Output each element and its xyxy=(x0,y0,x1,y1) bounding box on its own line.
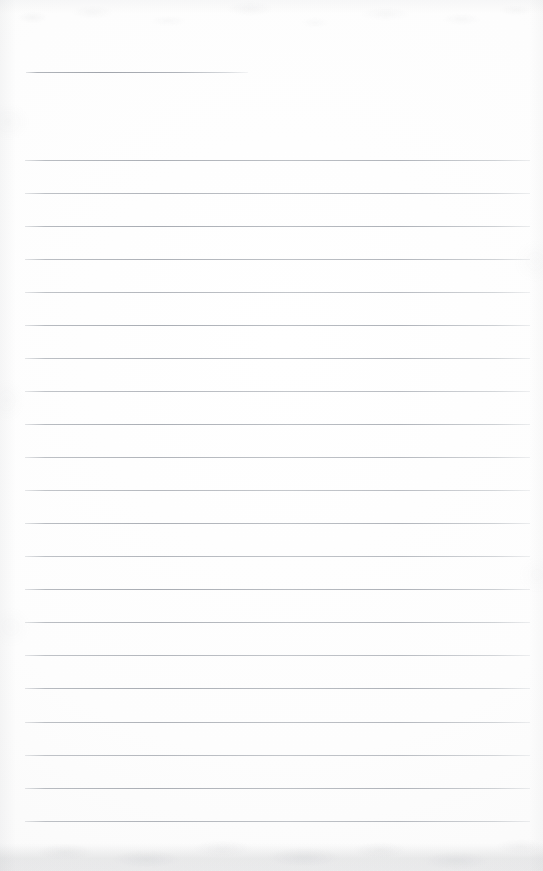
ruled-line xyxy=(25,193,530,194)
ruled-line xyxy=(25,722,530,723)
ruled-line xyxy=(25,490,530,491)
ruled-line xyxy=(25,457,530,458)
ruled-line xyxy=(25,788,530,789)
ruled-line xyxy=(25,821,530,822)
ruled-line xyxy=(25,589,530,590)
ruled-line xyxy=(25,259,530,260)
page-bottom-edge-shadow xyxy=(0,843,543,871)
ruled-line xyxy=(25,160,530,161)
paper-edge-vignette xyxy=(0,0,543,871)
ruled-line xyxy=(25,688,530,689)
ruled-line xyxy=(25,358,530,359)
ruled-line xyxy=(25,523,530,524)
ruled-line xyxy=(25,292,530,293)
ruled-line xyxy=(25,325,530,326)
ruled-line xyxy=(25,556,530,557)
ruled-line xyxy=(25,755,530,756)
ruled-line xyxy=(25,391,530,392)
scanned-page xyxy=(0,0,543,871)
ruled-line xyxy=(25,655,530,656)
header-rule xyxy=(26,72,248,73)
ruled-line xyxy=(25,226,530,227)
ruled-line xyxy=(25,424,530,425)
ruled-line xyxy=(25,622,530,623)
